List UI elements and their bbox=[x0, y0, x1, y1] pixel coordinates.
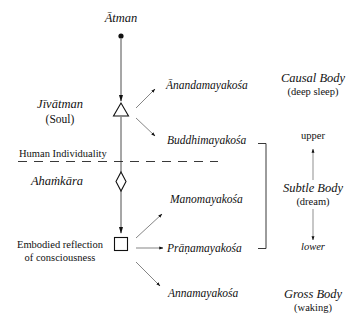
subtle-body-bracket bbox=[258, 144, 266, 249]
ahamkara-diamond-icon bbox=[116, 172, 126, 191]
upper-label: upper bbox=[301, 131, 325, 142]
subtle-body-group: Subtle Body (dream) bbox=[283, 182, 343, 208]
arrow-to-annamayakosa bbox=[136, 262, 160, 286]
soul-label: (Soul) bbox=[46, 113, 75, 126]
human-individuality-label: Human Individuality bbox=[19, 149, 107, 160]
kosha-annamaya: Annamayakośa bbox=[168, 288, 238, 300]
causal-body-label: Causal Body bbox=[281, 72, 345, 85]
lower-label: lower bbox=[301, 242, 325, 253]
embodied-square-icon bbox=[115, 238, 128, 251]
kosha-manomaya: Manomayakośa bbox=[170, 194, 243, 206]
causal-body-state: (deep sleep) bbox=[287, 85, 338, 98]
kosha-buddhimaya: Buddhimayakośa bbox=[167, 135, 246, 147]
diagram-graphics bbox=[0, 0, 364, 329]
embodied-line1: Embodied reflection bbox=[17, 238, 103, 251]
subtle-body-state: (dream) bbox=[296, 195, 329, 208]
arrow-to-anandamayakosa bbox=[136, 89, 155, 108]
jivatman-label-group: Jīvātman (Soul) bbox=[37, 98, 83, 126]
embodied-reflection-label-group: Embodied reflection of consciousness bbox=[17, 238, 103, 264]
kosha-anandamaya: Ānandamayakośa bbox=[166, 80, 248, 92]
kosha-pranamaya: Prāṇamayakośa bbox=[167, 243, 242, 255]
arrow-to-buddhimayakosa bbox=[136, 118, 155, 136]
embodied-line2: of consciousness bbox=[25, 251, 96, 264]
atman-label: Ātman bbox=[105, 12, 138, 25]
gross-body-label: Gross Body bbox=[284, 288, 342, 301]
atman-dot-icon bbox=[118, 33, 123, 38]
jivatman-label: Jīvātman bbox=[37, 98, 83, 111]
ahamkara-label: Ahaṁkāra bbox=[31, 175, 83, 188]
arrow-to-manomayakosa bbox=[136, 214, 162, 238]
gross-body-state: (waking) bbox=[294, 301, 332, 314]
jivatman-triangle-icon bbox=[114, 103, 129, 116]
koshas-diagram: Ātman Jīvātman (Soul) Human Individualit… bbox=[0, 0, 364, 329]
subtle-body-label: Subtle Body bbox=[283, 182, 343, 195]
gross-body-group: Gross Body (waking) bbox=[284, 288, 342, 314]
causal-body-group: Causal Body (deep sleep) bbox=[281, 72, 345, 98]
